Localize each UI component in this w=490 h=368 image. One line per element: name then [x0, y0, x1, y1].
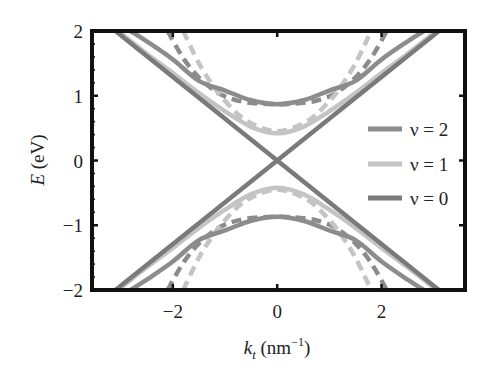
y-tick-label: 1: [74, 86, 84, 107]
curve--1: [118, 31, 436, 133]
legend-label: ν = 2: [410, 119, 448, 140]
band-structure-chart: 210−1−2−202 ν = 2ν = 1ν = 0 E (eV) kt (n…: [0, 0, 490, 368]
legend-label: ν = 0: [410, 188, 448, 209]
y-tick-label: 0: [74, 151, 84, 172]
x-tick-label: 0: [272, 301, 282, 322]
y-tick-label: −2: [63, 280, 83, 301]
y-axis-label: E (eV): [27, 134, 49, 186]
plot-curves: [115, 31, 438, 290]
y-tick-label: 2: [74, 21, 84, 42]
y-tick-label: −1: [63, 215, 83, 236]
curve--1-dashed: [183, 31, 371, 131]
curve--1-dashed: [183, 190, 371, 290]
x-tick-label: −2: [163, 301, 183, 322]
curve--1: [118, 188, 436, 290]
legend-label: ν = 1: [410, 154, 448, 175]
x-axis-label: kt (nm−1): [244, 335, 311, 362]
curve--2: [131, 217, 424, 290]
legend: ν = 2ν = 1ν = 0: [368, 119, 448, 209]
x-tick-label: 2: [377, 301, 387, 322]
curve--2: [131, 31, 424, 104]
